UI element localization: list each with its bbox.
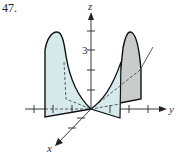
x-ticks	[68, 118, 85, 128]
x-axis-label: x	[46, 142, 52, 154]
z-tick-label: 3	[82, 44, 88, 56]
surface-figure: 3 z y x	[0, 0, 195, 166]
y-axis-label: y	[168, 103, 174, 115]
diag-line	[140, 47, 153, 70]
front-right-surface	[91, 62, 121, 118]
z-axis-arrow-icon	[88, 12, 94, 20]
z-axis-label: z	[87, 0, 93, 12]
y-axis-arrow-icon	[159, 106, 167, 112]
